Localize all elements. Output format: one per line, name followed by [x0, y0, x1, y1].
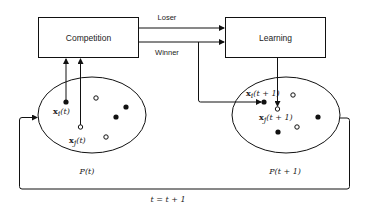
- population-point: [113, 114, 118, 119]
- xi-point: [261, 99, 266, 104]
- population-point: [275, 129, 280, 134]
- population-point: [315, 114, 320, 119]
- xi-point: [63, 99, 68, 104]
- xj-label: xj(t): [69, 135, 86, 147]
- population-current: xi(t) xj(t) P(t): [38, 77, 146, 176]
- learning-node: Learning: [226, 18, 326, 58]
- xi-label: xi(t + 1): [246, 88, 280, 100]
- winner-label: Winner: [155, 48, 179, 57]
- population-point: [94, 96, 98, 100]
- loser-edge: Loser: [139, 13, 225, 29]
- population-current-label: P(t): [79, 167, 95, 176]
- xj-point: [275, 107, 279, 111]
- population-point: [295, 125, 299, 129]
- xj-label: xj(t + 1): [259, 112, 293, 124]
- population-next-label: P(t + 1): [268, 167, 301, 176]
- population-point: [104, 135, 108, 139]
- population-point: [123, 104, 128, 109]
- loser-label: Loser: [158, 13, 177, 22]
- xj-point: [78, 125, 82, 129]
- learning-label: Learning: [259, 33, 292, 43]
- competition-label: Competition: [66, 33, 112, 43]
- population-point: [291, 93, 295, 97]
- iteration-label: t = t + 1: [150, 195, 185, 204]
- winner-edge: Winner: [139, 42, 225, 57]
- competitive-learning-diagram: Competition Learning Loser Winner xi(t): [0, 0, 369, 208]
- population-next: xi(t + 1) xj(t + 1) P(t + 1): [232, 77, 340, 176]
- iteration-loop-edge: [20, 118, 350, 190]
- xi-label: xi(t): [53, 106, 70, 118]
- competition-node: Competition: [39, 18, 139, 58]
